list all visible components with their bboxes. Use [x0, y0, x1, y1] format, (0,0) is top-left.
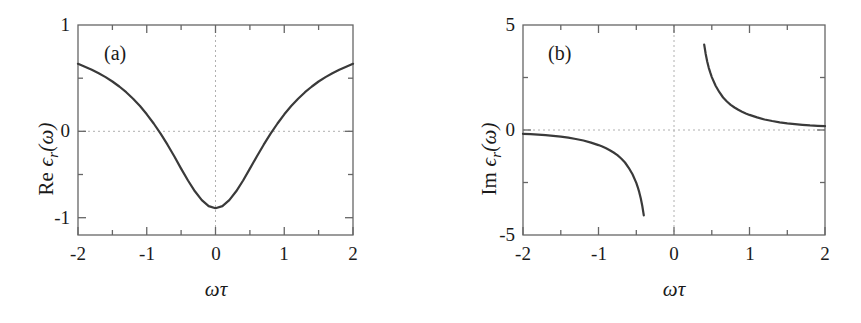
panel-a-xtick-1: 1: [264, 243, 304, 265]
figure-container: (a) Re ϵr(ω) 1 0 -1 -2 -1 0 1 2 ωτ: [0, 0, 861, 323]
panel-b-tag: (b): [548, 42, 571, 65]
panel-a-tag: (a): [104, 42, 126, 65]
panel-b-ylabel-sub: r: [488, 152, 504, 158]
panel-b-curve-positive: [704, 45, 825, 127]
panel-a-ylabel-eps: ϵ: [34, 158, 58, 167]
panel-a-xtick-neg1: -1: [127, 243, 167, 265]
panel-a-ytick-1: 1: [42, 14, 70, 36]
panel-a-xtick-neg2: -2: [58, 243, 98, 265]
panel-b-xlabel: ωτ: [634, 277, 714, 302]
panel-b: (b) Im ϵr(ω) 5 0 -5 -2 -1 0 1 2 ωτ: [431, 0, 861, 323]
panel-b-xtick-neg2: -2: [503, 243, 543, 265]
panel-b-ytick-0: 0: [487, 119, 515, 141]
panel-b-curve-negative: [523, 134, 644, 216]
panel-a-xtick-2: 2: [333, 243, 373, 265]
panel-b-ylabel-prefix: Im: [477, 166, 501, 195]
panel-a-xtick-0: 0: [196, 243, 236, 265]
panel-b-xtick-1: 1: [730, 243, 770, 265]
panel-b-ytick-5: 5: [487, 14, 515, 36]
panel-b-xtick-neg1: -1: [579, 243, 619, 265]
panel-b-xtick-2: 2: [805, 243, 845, 265]
panel-b-ylabel-eps: ϵ: [477, 158, 501, 167]
panel-a-plot: [0, 0, 430, 323]
panel-a-ylabel-sub: r: [45, 152, 61, 158]
panel-a-ytick-0: 0: [42, 120, 70, 142]
panel-a-xlabel: ωτ: [176, 277, 256, 302]
panel-b-xtick-0: 0: [654, 243, 694, 265]
panel-a-ylabel-prefix: Re: [34, 166, 58, 195]
panel-a: (a) Re ϵr(ω) 1 0 -1 -2 -1 0 1 2 ωτ: [0, 0, 430, 323]
panel-a-ytick-neg1: -1: [34, 207, 70, 229]
